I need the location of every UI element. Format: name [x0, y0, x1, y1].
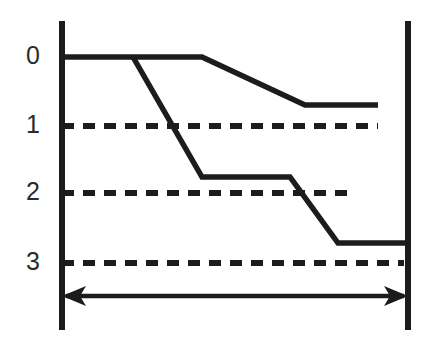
lower-curve [133, 57, 408, 243]
axis-tick-label-1: 1 [26, 110, 40, 138]
axis-tick-label-3: 3 [26, 247, 40, 275]
line-diagram-svg: 0 1 2 3 [0, 0, 433, 351]
axis-tick-label-0: 0 [26, 41, 40, 69]
upper-curve [62, 57, 378, 105]
figure-container: 0 1 2 3 [0, 0, 433, 351]
horizontal-span-arrow [62, 286, 408, 306]
axis-tick-label-2: 2 [26, 177, 40, 205]
